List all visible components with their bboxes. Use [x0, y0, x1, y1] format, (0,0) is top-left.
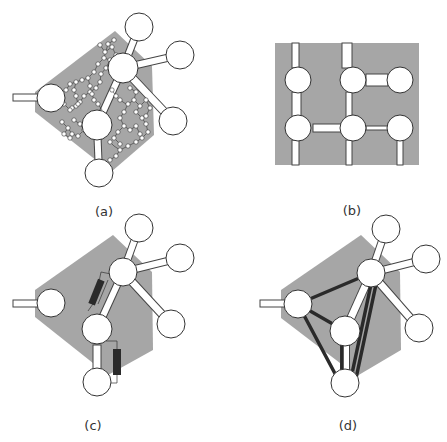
- panel-a: (a): [13, 13, 194, 219]
- panel-label-d: (d): [339, 418, 357, 433]
- lattice-node: [387, 67, 413, 93]
- coarse-node: [405, 314, 433, 342]
- coarse-node: [159, 107, 187, 135]
- panel-label-a: (a): [95, 204, 113, 219]
- coarse-node: [83, 368, 111, 396]
- coarse-node: [284, 290, 312, 318]
- coarse-node: [82, 110, 112, 140]
- coarse-node: [166, 41, 194, 69]
- coarse-node: [37, 289, 65, 317]
- coarse-node: [357, 259, 385, 287]
- coarse-node: [109, 258, 137, 286]
- coarse-node: [372, 215, 400, 243]
- stub-bond: [13, 94, 39, 101]
- coarse-node: [166, 244, 194, 272]
- coarse-node: [412, 245, 440, 273]
- coarse-node: [37, 84, 65, 112]
- panel-d: (d): [260, 215, 440, 433]
- coarse-node: [82, 314, 112, 344]
- panel-b: (b): [275, 43, 419, 218]
- panel-label-c: (c): [84, 418, 101, 433]
- coarse-node: [331, 369, 359, 397]
- panel-c: (c): [13, 214, 194, 433]
- lattice-node: [340, 115, 366, 141]
- figure-canvas: (a) (b): [0, 0, 447, 442]
- coarse-node: [157, 310, 185, 338]
- lattice-node: [285, 67, 311, 93]
- coarse-node: [330, 316, 360, 346]
- coarse-node: [125, 13, 153, 41]
- lattice-node: [285, 115, 311, 141]
- lattice-node: [387, 115, 413, 141]
- coarse-node: [85, 159, 113, 187]
- coarse-node: [125, 214, 153, 242]
- lattice-node: [340, 67, 366, 93]
- coarse-node: [108, 53, 138, 83]
- panel-label-b: (b): [343, 203, 361, 218]
